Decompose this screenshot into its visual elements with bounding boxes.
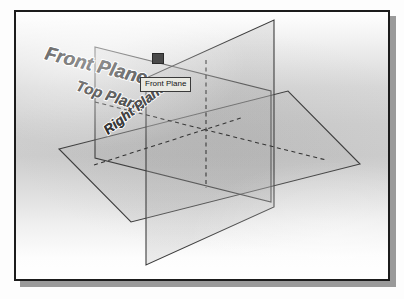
screenshot-root: Front Plane Front Plane Top Plane Top Pl… bbox=[0, 0, 404, 299]
plane-tooltip: Front Plane bbox=[140, 77, 191, 92]
reference-planes-drawing: Front Plane Front Plane Top Plane Top Pl… bbox=[16, 12, 388, 279]
plane-right[interactable] bbox=[146, 20, 274, 265]
selection-handle[interactable] bbox=[152, 53, 164, 64]
cad-graphics-viewport[interactable]: Front Plane Front Plane Top Plane Top Pl… bbox=[14, 10, 390, 281]
